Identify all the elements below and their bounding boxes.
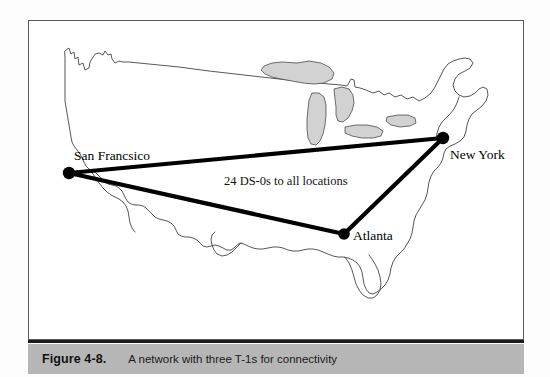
label-network-annotation: 24 DS-0s to all locations: [224, 174, 348, 188]
node-atlanta[interactable]: [338, 228, 350, 240]
figure-container: San Francsico New York Atlanta 24 DS-0s …: [0, 0, 550, 377]
map-frame: San Francsico New York Atlanta 24 DS-0s …: [28, 20, 524, 340]
figure-caption-bar: Figure 4-8. A network with three T-1s fo…: [28, 344, 524, 374]
gulf-coast-detail: [211, 232, 241, 256]
us-map-svg: San Francsico New York Atlanta 24 DS-0s …: [29, 21, 524, 340]
us-mainland-outline: [65, 48, 488, 294]
lake-michigan: [307, 93, 326, 145]
label-new-york: New York: [450, 147, 505, 162]
lake-huron: [334, 87, 354, 122]
lake-superior: [261, 61, 334, 84]
figure-caption-text: A network with three T-1s for connectivi…: [128, 353, 337, 365]
northeast-coast-detail: [436, 97, 459, 139]
node-new-york[interactable]: [437, 132, 449, 144]
lake-ontario: [386, 115, 416, 127]
great-lakes-group: [261, 61, 416, 145]
label-san-francisco: San Francsico: [74, 148, 150, 163]
figure-number: Figure 4-8.: [42, 352, 106, 366]
lake-erie: [345, 125, 383, 138]
node-san-francisco[interactable]: [63, 167, 75, 179]
us-coastline-group: [65, 48, 488, 298]
label-atlanta: Atlanta: [353, 228, 393, 243]
network-labels-group: San Francsico New York Atlanta 24 DS-0s …: [74, 147, 505, 243]
